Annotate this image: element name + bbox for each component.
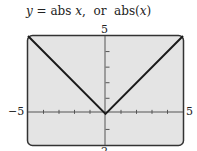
plot bbox=[0, 0, 197, 151]
